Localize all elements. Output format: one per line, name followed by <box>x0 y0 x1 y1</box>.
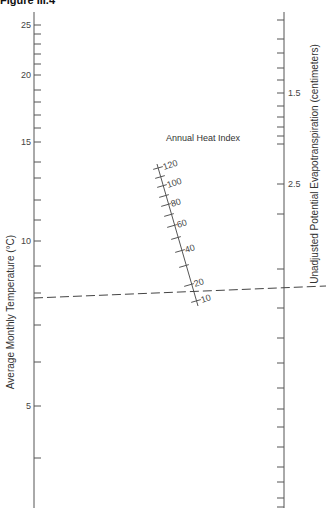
tick-label: 10 <box>21 236 31 246</box>
tick <box>175 250 185 253</box>
tick-label: 5 <box>26 401 31 411</box>
tick <box>179 265 189 268</box>
tick-label: 20 <box>193 276 206 289</box>
tick <box>159 195 169 198</box>
tick-label: 40 <box>184 242 197 255</box>
left-temperature-axis: 252015105 <box>21 12 41 508</box>
tick-label: 25 <box>21 20 31 30</box>
tick-label: 120 <box>162 158 179 172</box>
right-axis-title: Unadjusted Potential Evapotranspiration … <box>309 44 320 284</box>
tick-label: 2.5 <box>288 179 301 189</box>
right-evapotranspiration-axis: 1.52.5 <box>277 12 301 508</box>
tick-label: 10 <box>200 292 213 305</box>
tick <box>171 237 181 240</box>
tick-label: 60 <box>176 217 189 230</box>
dashed-example-line <box>34 286 326 298</box>
tick <box>157 185 167 188</box>
tick-label: 100 <box>166 176 183 190</box>
tick-label: 15 <box>21 137 31 147</box>
middle-axis-title: Annual Heat Index <box>166 133 241 143</box>
tick-label: 1.5 <box>288 88 301 98</box>
tick-label: 80 <box>170 196 183 209</box>
middle-heat-index-axis: 1201008060402010 <box>153 158 212 306</box>
left-axis-title: Average Monthly Temperature (°C) <box>5 235 16 389</box>
nomogram-chart: 252015105 1201008060402010 1.52.5 Averag… <box>0 0 326 508</box>
tick-label: 20 <box>21 70 31 80</box>
